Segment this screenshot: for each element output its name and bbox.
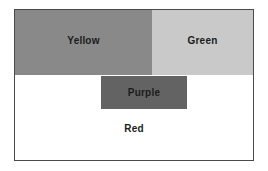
region-purple[interactable]: Purple bbox=[101, 76, 187, 109]
region-yellow-label: Yellow bbox=[67, 36, 99, 46]
region-yellow[interactable]: Yellow bbox=[15, 10, 152, 75]
region-purple-label: Purple bbox=[128, 88, 160, 98]
region-green[interactable]: Green bbox=[152, 10, 253, 75]
diagram-frame: Red Yellow Green Purple bbox=[14, 9, 254, 161]
region-green-label: Green bbox=[188, 36, 218, 46]
diagram-canvas: Red Yellow Green Purple bbox=[0, 0, 268, 171]
region-red-label: Red bbox=[124, 124, 144, 134]
